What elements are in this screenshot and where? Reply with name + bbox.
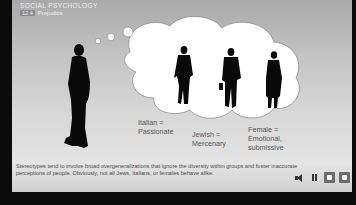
label-italian: Italian = Passionate bbox=[138, 118, 174, 136]
pause-button[interactable] bbox=[309, 172, 320, 183]
thought-dot-large bbox=[123, 27, 133, 37]
thought-dot-medium bbox=[107, 33, 115, 41]
thought-dot-small bbox=[95, 38, 101, 44]
next-icon bbox=[342, 175, 347, 180]
prev-icon bbox=[327, 175, 332, 180]
pause-icon bbox=[312, 174, 318, 181]
label-jewish: Jewish = Mercenary bbox=[192, 130, 226, 148]
prev-slide-button[interactable] bbox=[324, 172, 335, 183]
volume-icon bbox=[295, 174, 304, 182]
label-female: Female = Emotional, submissive bbox=[248, 125, 284, 152]
thinker-silhouette-icon bbox=[64, 44, 90, 148]
next-slide-button[interactable] bbox=[339, 172, 350, 183]
volume-button[interactable] bbox=[294, 172, 305, 183]
playback-controls bbox=[294, 172, 350, 183]
slide-caption: Stereotypes tend to involve broad overge… bbox=[16, 163, 316, 177]
slide-screen: Social Psychology 12.4 Prejudice bbox=[12, 0, 352, 192]
